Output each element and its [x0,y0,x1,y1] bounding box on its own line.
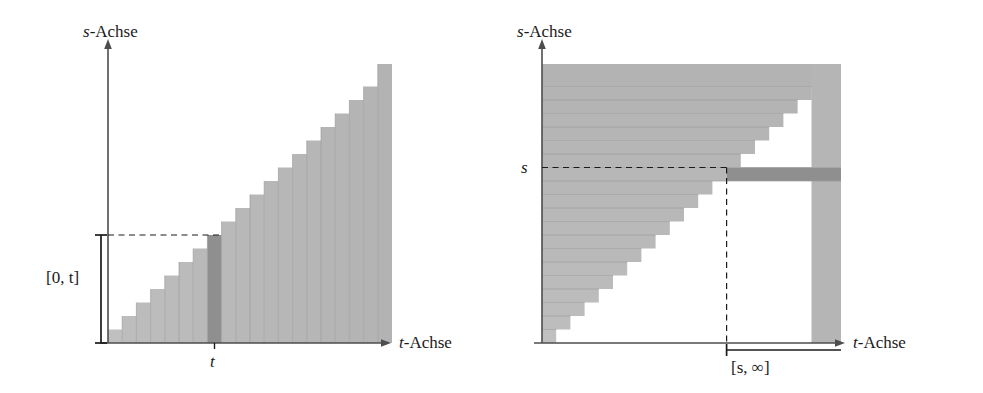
right-bracket-interval [727,344,841,356]
panel-right: s-Achse t-Achse s [s, ∞] [493,0,983,393]
left-y-axis-label-rest: -Achse [90,22,138,41]
left-x-axis-label: t-Achse [399,333,452,353]
right-x-axis-label-rest: -Achse [858,333,906,352]
left-tick-label-t: t [210,352,215,372]
left-highlight-column [207,235,221,343]
left-interval-label: [0, t] [46,268,79,288]
figure-container: s-Achse t-Achse t [0, t] [0,0,983,393]
left-y-axis-label-var: s [83,22,90,41]
right-tick-label-s: s [521,158,528,178]
panel-left: s-Achse t-Achse t [0, t] [0,0,490,393]
left-x-axis-label-rest: -Achse [404,333,452,352]
right-filler-column [812,64,842,343]
right-y-axis-label-rest: -Achse [524,22,572,41]
right-highlight-row [727,168,841,182]
right-panel-drawing [493,0,983,393]
right-x-axis-label: t-Achse [853,333,906,353]
right-interval-label: [s, ∞] [731,358,770,378]
right-y-axis-label: s-Achse [517,22,572,42]
left-y-axis-label: s-Achse [83,22,138,42]
right-bars [542,64,841,343]
right-y-axis-label-var: s [517,22,524,41]
left-bracket-interval [95,235,107,343]
